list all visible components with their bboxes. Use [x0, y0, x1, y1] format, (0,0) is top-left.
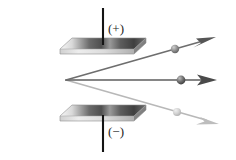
particle-sphere-middle: [177, 76, 186, 85]
radiation-deflection-diagram: (+) (−): [0, 0, 236, 160]
positive-plate-label: (+): [108, 22, 124, 35]
negative-plate-top-face: [60, 105, 146, 116]
particle-sphere-upper: [171, 45, 179, 53]
undeflected-ray-neutral-particle: [66, 75, 217, 86]
negative-plate-front-face: [60, 116, 134, 121]
negative-plate-label: (−): [108, 125, 124, 138]
particle-sphere-lower: [173, 108, 181, 116]
positive-plate-front-face: [60, 49, 134, 54]
